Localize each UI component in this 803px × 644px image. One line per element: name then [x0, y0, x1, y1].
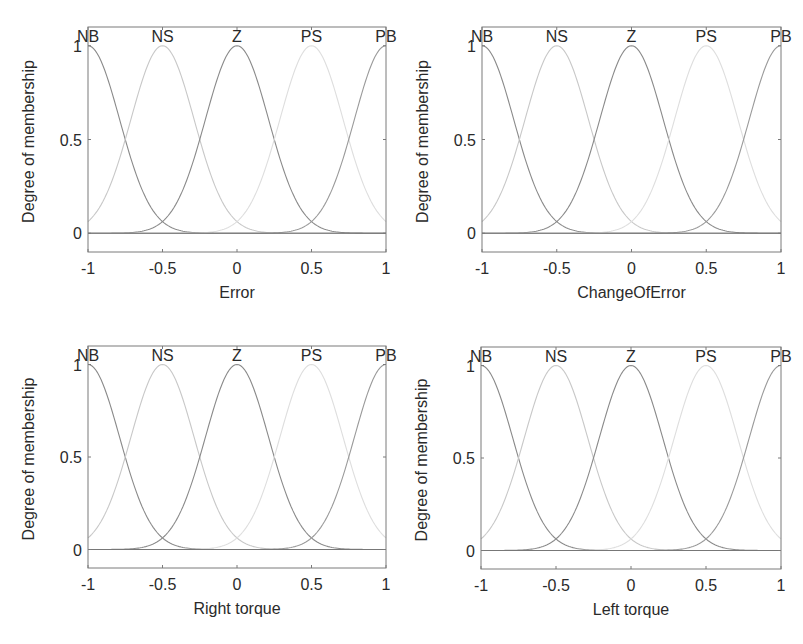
- mf-curve-pb: [482, 46, 781, 234]
- x-tick-label: 0.5: [300, 576, 322, 593]
- x-axis-label: Right torque: [193, 600, 280, 617]
- axes-box: [88, 346, 386, 568]
- subplot-error: -1-0.500.5100.51NBNSZPSPBErrorDegree of …: [20, 27, 397, 301]
- mf-curve-z: [482, 46, 781, 234]
- y-tick-label: 0.5: [60, 132, 82, 149]
- subplot-right-torque: -1-0.500.5100.51NBNSZPSPBRight torqueDeg…: [20, 346, 397, 617]
- x-axis-label: Error: [219, 284, 255, 301]
- mf-label-pb: PB: [770, 348, 791, 365]
- mf-label-z: Z: [627, 28, 637, 45]
- mf-label-ns: NS: [151, 28, 173, 45]
- mf-curve-nb: [482, 46, 781, 234]
- x-axis-label: Left torque: [593, 601, 670, 618]
- mf-label-ns: NS: [151, 347, 173, 364]
- mf-curve-ns: [88, 46, 386, 234]
- mf-curve-ns: [88, 365, 386, 550]
- x-tick-label: 0: [233, 260, 242, 277]
- y-axis-label: Degree of membership: [414, 60, 431, 223]
- y-tick-label: 0.5: [453, 450, 475, 467]
- mf-label-ps: PS: [695, 348, 716, 365]
- mf-label-z: Z: [232, 28, 242, 45]
- x-tick-label: -0.5: [542, 577, 570, 594]
- axes-box: [88, 27, 386, 252]
- mf-curve-ps: [88, 46, 386, 234]
- y-tick-label: 0: [467, 225, 476, 242]
- mf-curve-ns: [481, 366, 781, 551]
- y-tick-label: 0: [73, 225, 82, 242]
- x-tick-label: -0.5: [543, 260, 571, 277]
- mf-curve-z: [481, 366, 781, 551]
- subplot-changeoferror: -1-0.500.5100.51NBNSZPSPBChangeOfErrorDe…: [414, 27, 792, 301]
- y-tick-label: 0: [73, 542, 82, 559]
- mf-curve-ps: [482, 46, 781, 234]
- figure: -1-0.500.5100.51NBNSZPSPBErrorDegree of …: [0, 0, 803, 644]
- x-tick-label: 1: [382, 576, 391, 593]
- mf-label-z: Z: [626, 348, 636, 365]
- x-tick-label: 1: [777, 260, 786, 277]
- subplot-left-torque: -1-0.500.5100.51NBNSZPSPBLeft torqueDegr…: [413, 347, 792, 618]
- mf-curve-ns: [482, 46, 781, 234]
- y-axis-label: Degree of membership: [413, 379, 430, 542]
- x-axis-label: ChangeOfError: [577, 284, 686, 301]
- x-tick-label: 0.5: [695, 260, 717, 277]
- mf-label-nb: NB: [77, 347, 99, 364]
- axes-box: [481, 347, 781, 569]
- mf-label-ns: NS: [546, 28, 568, 45]
- mf-curve-pb: [88, 46, 386, 234]
- mf-label-ps: PS: [301, 347, 322, 364]
- x-tick-label: -1: [475, 260, 489, 277]
- x-tick-label: 1: [777, 577, 786, 594]
- mf-label-nb: NB: [471, 28, 493, 45]
- mf-curve-pb: [88, 365, 386, 550]
- mf-label-pb: PB: [770, 28, 791, 45]
- y-axis-label: Degree of membership: [20, 378, 37, 541]
- x-tick-label: 0.5: [300, 260, 322, 277]
- x-tick-label: -0.5: [149, 576, 177, 593]
- mf-label-z: Z: [232, 347, 242, 364]
- x-tick-label: 0: [627, 260, 636, 277]
- y-tick-label: 0.5: [60, 449, 82, 466]
- mf-label-ns: NS: [545, 348, 567, 365]
- mf-curve-nb: [88, 46, 386, 234]
- x-tick-label: 1: [382, 260, 391, 277]
- mf-label-ps: PS: [301, 28, 322, 45]
- mf-curve-z: [88, 365, 386, 550]
- x-tick-label: 0: [627, 577, 636, 594]
- x-tick-label: 0.5: [695, 577, 717, 594]
- mf-curve-z: [88, 46, 386, 234]
- y-tick-label: 0: [466, 543, 475, 560]
- x-tick-label: -1: [81, 260, 95, 277]
- mf-curve-ps: [481, 366, 781, 551]
- mf-label-ps: PS: [696, 28, 717, 45]
- y-axis-label: Degree of membership: [20, 60, 37, 223]
- x-tick-label: -1: [81, 576, 95, 593]
- x-tick-label: -1: [474, 577, 488, 594]
- mf-label-nb: NB: [470, 348, 492, 365]
- y-tick-label: 0.5: [454, 132, 476, 149]
- mf-curve-nb: [88, 365, 386, 550]
- mf-curve-ps: [88, 365, 386, 550]
- x-tick-label: -0.5: [149, 260, 177, 277]
- x-tick-label: 0: [233, 576, 242, 593]
- mf-label-pb: PB: [375, 28, 396, 45]
- mf-curve-nb: [481, 366, 781, 551]
- mf-label-pb: PB: [375, 347, 396, 364]
- mf-label-nb: NB: [77, 28, 99, 45]
- membership-function-figure: -1-0.500.5100.51NBNSZPSPBErrorDegree of …: [0, 0, 803, 644]
- mf-curve-pb: [481, 366, 781, 551]
- axes-box: [482, 27, 781, 252]
